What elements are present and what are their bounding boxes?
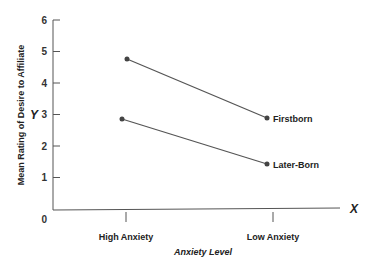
y-tick-labels: 0 1 2 3 4 5 6 (41, 15, 47, 225)
point-laterborn-low (265, 162, 270, 167)
y-tick-1: 1 (41, 172, 47, 183)
series-firstborn: Firstborn (125, 57, 313, 125)
series-later-born: Later-Born (120, 117, 320, 171)
y-tick-0: 0 (41, 214, 47, 225)
x-axis-title: Anxiety Level (173, 247, 233, 257)
series-label-firstborn: Firstborn (273, 114, 313, 124)
point-firstborn-low (265, 116, 270, 121)
point-laterborn-high (120, 117, 125, 122)
series-label-later-born: Later-Born (273, 160, 319, 170)
y-tick-5: 5 (41, 46, 47, 57)
point-firstborn-high (125, 57, 130, 62)
y-ticks (53, 20, 60, 178)
x-cat-high-anxiety: High Anxiety (99, 232, 154, 242)
y-tick-3: 3 (41, 109, 47, 120)
x-axis-letter: X (349, 202, 359, 216)
y-tick-2: 2 (41, 141, 47, 152)
y-tick-6: 6 (41, 15, 47, 26)
x-axis (53, 208, 340, 210)
chart: 0 1 2 3 4 5 6 Y X Mean Rating of Desire … (0, 0, 369, 271)
y-axis-title: Mean Rating of Desire to Affiliate (16, 45, 26, 186)
y-axis-letter: Y (30, 108, 39, 122)
x-cat-low-anxiety: Low Anxiety (247, 232, 300, 242)
y-tick-4: 4 (41, 78, 47, 89)
